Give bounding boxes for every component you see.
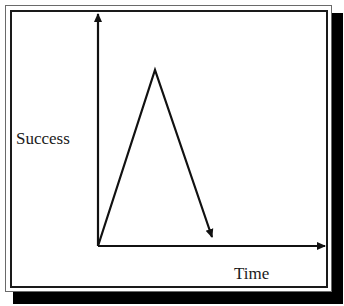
x-axis-label: Time: [234, 264, 269, 284]
success-time-diagram: [0, 0, 344, 306]
y-axis-label: Success: [16, 129, 70, 149]
success-curve: [98, 70, 212, 246]
